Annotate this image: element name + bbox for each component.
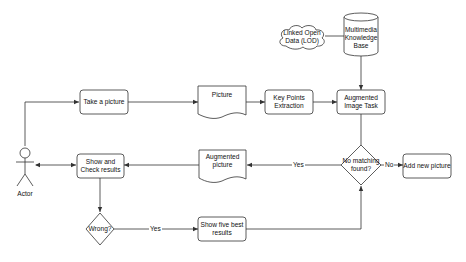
edge-label-yes-wrong: Yes xyxy=(149,225,162,233)
edge-actor-to-take-picture xyxy=(25,102,79,146)
edge-show-five-to-no-matching xyxy=(246,186,361,229)
picture-label: Picture xyxy=(198,88,246,102)
lod-label: Linked Open Data (LOD) xyxy=(281,28,323,46)
key-points-label: Key Points Extraction xyxy=(265,90,313,114)
take-picture-label: Take a picture xyxy=(80,90,128,114)
augmented-picture-label: Augmented picture xyxy=(199,151,246,171)
no-matching-label: No matching found? xyxy=(339,155,383,175)
actor-label: Actor xyxy=(10,189,40,199)
knowledge-base-label: Multimedia Knowledge Base xyxy=(340,22,382,54)
add-new-label: Add new picture xyxy=(403,154,451,178)
edge-label-yes-no-matching: Yes xyxy=(292,161,305,169)
show-five-label: Show five best results xyxy=(198,217,246,241)
show-check-label: Show and Check results xyxy=(77,154,124,178)
augmented-task-label: Augmented Image Task xyxy=(337,90,385,114)
edge-label-no: No xyxy=(384,161,394,169)
wrong-label: Wrong? xyxy=(84,224,116,234)
actor-icon xyxy=(16,148,34,186)
